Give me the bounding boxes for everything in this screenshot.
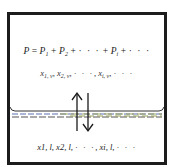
term-subscript: i <box>117 51 119 57</box>
separator: , <box>112 142 114 152</box>
mole-fraction-subscript: i, l <box>103 142 112 152</box>
evaporation-arrow-icon <box>72 93 82 131</box>
separator: , <box>95 142 97 152</box>
exchange-arrows-icon <box>68 91 98 133</box>
ellipsis: · · · <box>114 68 134 78</box>
ellipsis: · · · <box>75 142 95 152</box>
plus-sign: + <box>103 46 108 56</box>
separator: , <box>52 142 54 152</box>
mole-fraction-subscript: 1, v <box>44 73 53 79</box>
ellipsis: · · · <box>117 142 137 152</box>
ellipsis: · · · <box>74 68 94 78</box>
term-subscript: 1 <box>46 51 49 57</box>
separator: , <box>71 142 73 152</box>
separator: , <box>53 68 55 78</box>
container-vessel: P = P1 + P2 + · · · + Pi + · · · x1, v, … <box>7 12 167 165</box>
mole-fraction-subscript: 1, l <box>41 142 52 152</box>
separator: , <box>94 68 96 78</box>
liquid-mole-fractions: x1, l, x2, l, · · ·, xi, l, · · · <box>10 142 164 152</box>
plus-sign: + <box>71 46 76 56</box>
pressure-symbol: P <box>23 46 29 56</box>
term-subscript: 2 <box>65 51 68 57</box>
equals-sign: = <box>32 46 37 56</box>
plus-sign: + <box>121 46 126 56</box>
ellipsis: · · · <box>129 46 151 56</box>
ellipsis: · · · <box>79 46 101 56</box>
condensation-arrow-icon <box>83 93 93 131</box>
separator: , <box>109 68 111 78</box>
mole-fraction-subscript: 2, l <box>60 142 71 152</box>
vapor-mole-fractions: x1, v, x2, v, · · ·, xi, v, · · · <box>10 68 164 79</box>
separator: , <box>69 68 71 78</box>
total-pressure-equation: P = P1 + P2 + · · · + Pi + · · · <box>10 46 164 57</box>
plus-sign: + <box>51 46 56 56</box>
